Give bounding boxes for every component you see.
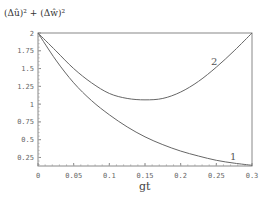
y-tick-label: 1 xyxy=(30,101,34,109)
x-tick-label: 0.3 xyxy=(246,172,259,180)
x-tick-label: 0.1 xyxy=(103,172,116,180)
y-tick-label: 1.5 xyxy=(21,65,34,73)
y-tick-label: 2 xyxy=(30,30,34,38)
y-tick-label: 0.25 xyxy=(17,154,34,162)
x-tick-label: 0.05 xyxy=(65,172,82,180)
x-axis-title: gt xyxy=(139,180,150,193)
x-tick-label: 0.15 xyxy=(137,172,154,180)
y-tick-label: 0.75 xyxy=(17,118,34,126)
curve-2 xyxy=(38,33,252,100)
line-chart: 0.250.50.7511.251.51.752 00.050.10.150.2… xyxy=(0,0,272,198)
curve-1-label: 1 xyxy=(230,151,236,162)
y-tick-label: 0.5 xyxy=(21,136,34,144)
y-tick-label: 1.75 xyxy=(17,47,34,55)
curve-1 xyxy=(38,33,252,165)
y-axis-ticks: 0.250.50.7511.251.51.752 xyxy=(17,30,41,165)
y-tick-label: 1.25 xyxy=(17,83,34,91)
curve-2-label: 2 xyxy=(211,56,217,67)
x-tick-label: 0.2 xyxy=(174,172,187,180)
curves xyxy=(38,33,252,165)
x-tick-label: 0 xyxy=(36,172,40,180)
x-tick-label: 0.25 xyxy=(208,172,225,180)
